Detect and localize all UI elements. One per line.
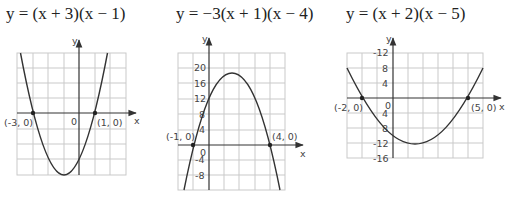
graph-3-y-label: y	[386, 33, 392, 44]
graph-1-root-left-label: (-3, 0)	[4, 117, 33, 128]
graph-2-root-left	[191, 143, 195, 147]
graph-1-x-label: x	[134, 115, 140, 126]
graph-1-y-label: y	[72, 35, 78, 46]
graph-3-root-right-label: (5, 0)	[471, 102, 497, 113]
graph-1-root-left	[31, 111, 35, 115]
graph-1: y x 0 (-3, 0) (1, 0)	[4, 35, 140, 175]
graph-2: y x 20 16 12 8 4 0 -4 -8 (-1, 0) (4, 0)	[166, 33, 306, 190]
graph-3-ytick-12: -12	[373, 47, 389, 58]
graph-3-ytick-neg16: -16	[373, 153, 389, 164]
graph-3-x-label: x	[499, 101, 505, 112]
graph-3-root-left	[360, 96, 364, 100]
graph-2-root-left-label: (-1, 0)	[166, 131, 195, 142]
graphs-canvas: y x 0 (-3, 0) (1, 0) y x 20 16 12 8 4 0 …	[0, 0, 510, 197]
graph-2-ytick-20: 20	[194, 62, 206, 73]
graph-3-root-left-label: (-2, 0)	[334, 102, 363, 113]
graph-3-ytick-neg4: 4	[382, 108, 388, 119]
graph-3-ytick-4: 4	[382, 78, 388, 89]
graph-3-curve	[347, 68, 483, 144]
graph-2-root-right-label: (4, 0)	[272, 131, 298, 142]
graph-2-ytick-12: 12	[194, 93, 206, 104]
graph-3-ytick-8: 8	[382, 63, 388, 74]
graph-2-y-label: y	[202, 33, 208, 44]
graph-2-ytick-neg8: -8	[195, 170, 204, 181]
graph-2-x-label: x	[300, 148, 306, 159]
graph-3-root-right	[466, 96, 470, 100]
graph-1-root-right-label: (1, 0)	[97, 117, 123, 128]
graph-2-ytick-16: 16	[194, 78, 206, 89]
graph-3: y x -12 8 4 0 4 8 -12 -16 (-2, 0) (5, 0)	[334, 33, 505, 164]
graph-3-ytick-neg12: -12	[373, 138, 389, 149]
graph-1-origin: 0	[71, 116, 77, 127]
graph-2-root-right	[268, 143, 272, 147]
graph-2-ytick-neg4: -4	[195, 154, 204, 165]
graph-1-root-right	[93, 111, 97, 115]
